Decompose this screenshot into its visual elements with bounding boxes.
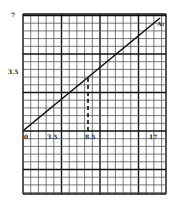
x-tick-8-5: 8.5 [85,133,95,140]
y-tick-3-5: 3.5 [8,68,18,75]
y-tick-7: 7 [11,11,15,18]
chart-canvas: 7 3.5 0 3.5 8.5 17 A₁ [0,0,180,208]
grid [23,14,166,194]
series-label-a1: A₁ [156,20,165,27]
origin-label: 0 [24,133,28,140]
x-tick-3-5: 3.5 [47,133,57,140]
x-tick-17: 17 [149,133,157,140]
